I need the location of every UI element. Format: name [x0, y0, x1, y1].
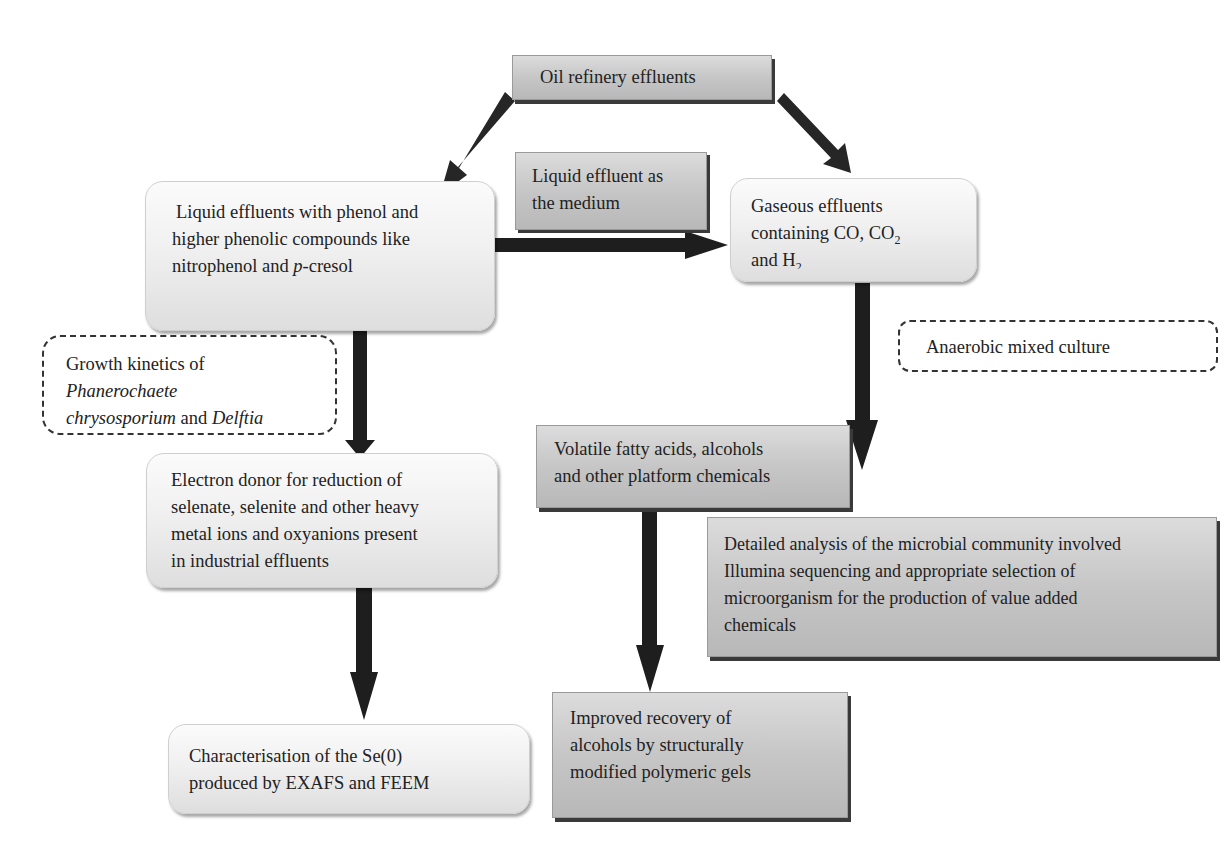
node-line: chrysosporium and Delftia — [66, 405, 335, 432]
arrow-liquid-to-electron-donor — [345, 330, 375, 458]
node-line: selenate, selenite and other heavy — [171, 494, 497, 521]
node-volatile-fatty-acids: Volatile fatty acids, alcohols and other… — [536, 425, 850, 508]
node-label: Anaerobic mixed culture — [926, 334, 1216, 361]
node-line: produced by EXAFS and FEEM — [189, 770, 529, 797]
node-characterisation: Characterisation of the Se(0) produced b… — [168, 724, 530, 814]
node-line: Illumina sequencing and appropriate sele… — [724, 558, 1216, 585]
node-oil-refinery-effluents: Oil refinery effluents — [512, 55, 772, 100]
node-line: higher phenolic compounds like — [172, 226, 494, 253]
node-line: alcohols by structurally — [570, 732, 847, 759]
node-line: Growth kinetics of — [66, 351, 335, 378]
arrow-electron-donor-to-characterisation — [350, 586, 378, 720]
node-line: Volatile fatty acids, alcohols — [554, 436, 849, 463]
node-line: Electron donor for reduction of — [171, 467, 497, 494]
node-line: Improved recovery of — [570, 705, 847, 732]
node-line: Gaseous effluents — [751, 193, 976, 220]
node-gaseous-effluents: Gaseous effluents containing CO, CO2 and… — [730, 178, 977, 282]
node-line: and other platform chemicals — [554, 463, 849, 490]
arrow-gaseous-to-volatile — [846, 283, 878, 470]
node-line: Phanerochaete — [66, 378, 335, 405]
arrow-liquid-to-gaseous — [494, 231, 728, 259]
node-line: Liquid effluent as — [532, 163, 706, 190]
node-line: nitrophenol and p-cresol — [172, 253, 494, 280]
node-line: metal ions and oxyanions present — [171, 521, 497, 548]
node-line: modified polymeric gels — [570, 759, 847, 786]
node-line: lacustris — [66, 432, 335, 435]
node-line: containing CO, CO2 — [751, 220, 976, 247]
node-line: chemicals — [724, 612, 1216, 639]
arrow-oil-to-gaseous — [777, 93, 851, 173]
node-improved-recovery: Improved recovery of alcohols by structu… — [552, 692, 848, 818]
node-line: Characterisation of the Se(0) — [189, 743, 529, 770]
node-electron-donor: Electron donor for reduction of selenate… — [146, 453, 498, 588]
arrow-oil-to-liquid — [440, 92, 515, 195]
node-anaerobic-mixed-culture: Anaerobic mixed culture — [898, 320, 1218, 372]
node-liquid-effluent-medium: Liquid effluent as the medium — [515, 152, 707, 230]
node-line: and H2 — [751, 247, 976, 269]
node-line: Liquid effluents with phenol and — [172, 199, 494, 226]
node-line: the medium — [532, 190, 706, 217]
node-liquid-effluents: Liquid effluents with phenol and higher … — [145, 181, 495, 331]
node-label: Oil refinery effluents — [540, 64, 771, 91]
node-growth-kinetics: Growth kinetics of Phanerochaete chrysos… — [42, 335, 337, 435]
arrow-volatile-to-recovery — [636, 508, 664, 692]
node-line: Detailed analysis of the microbial commu… — [724, 531, 1216, 558]
node-line: in industrial effluents — [171, 548, 497, 575]
node-detailed-analysis: Detailed analysis of the microbial commu… — [707, 517, 1217, 657]
node-line: microorganism for the production of valu… — [724, 585, 1216, 612]
